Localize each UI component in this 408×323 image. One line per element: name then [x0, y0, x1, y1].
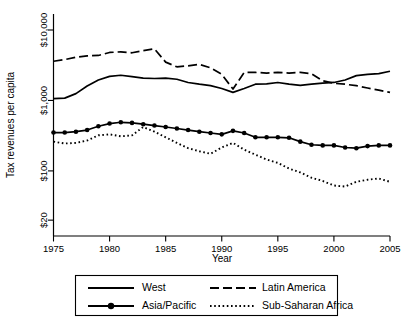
y-tick-label: $1,000 — [38, 86, 49, 115]
data-point — [130, 121, 135, 126]
data-point — [332, 143, 337, 148]
x-tick-label: 1985 — [155, 243, 176, 254]
y-tick-label: $10,000 — [38, 13, 49, 47]
legend-item-asia-pacific[interactable]: Asia/Pacific — [88, 299, 196, 311]
data-point — [242, 131, 247, 136]
data-point — [298, 139, 303, 144]
data-point — [343, 145, 348, 150]
data-point — [253, 135, 258, 140]
legend-item-west[interactable]: West — [88, 281, 166, 293]
x-tick-marks — [54, 236, 391, 242]
series-line — [54, 49, 391, 93]
data-point — [208, 131, 213, 136]
legend-label: West — [142, 281, 166, 293]
x-tick-label: 1995 — [267, 243, 288, 254]
data-point — [197, 129, 202, 134]
data-point — [376, 143, 381, 148]
data-point — [107, 121, 112, 126]
data-point — [276, 135, 281, 140]
legend-label: Asia/Pacific — [142, 299, 196, 311]
legend-marker — [108, 303, 114, 309]
x-tick-label: 1980 — [99, 243, 120, 254]
x-tick-label: 2005 — [379, 243, 400, 254]
x-tick-label: 2000 — [323, 243, 344, 254]
data-point — [287, 136, 292, 141]
chart-legend: WestLatin AmericaAsia/PacificSub-Saharan… — [76, 276, 354, 316]
data-point — [354, 146, 359, 151]
y-tick-labels: $20$100$1,000$10,000 — [38, 13, 49, 228]
data-point — [74, 129, 79, 134]
data-point — [231, 129, 236, 134]
data-point — [152, 123, 157, 128]
data-point — [96, 124, 101, 129]
data-point — [163, 125, 168, 130]
data-point — [388, 143, 393, 148]
legend-items: WestLatin AmericaAsia/PacificSub-Saharan… — [88, 281, 353, 311]
data-point — [175, 126, 180, 131]
chart-figure: $20$100$1,000$10,000 1975198019851990199… — [0, 0, 408, 323]
legend-label: Latin America — [262, 281, 326, 293]
data-point — [51, 130, 56, 135]
data-point — [219, 132, 224, 137]
x-axis-title: Year — [212, 253, 233, 264]
data-point — [62, 130, 67, 135]
legend-label: Sub-Saharan Africa — [262, 299, 353, 311]
data-point — [365, 144, 370, 149]
data-point — [320, 143, 325, 148]
data-point — [85, 128, 90, 133]
data-point — [119, 120, 124, 125]
legend-item-sub-saharan-africa[interactable]: Sub-Saharan Africa — [210, 299, 353, 311]
data-point — [186, 128, 191, 133]
y-tick-label: $20 — [38, 212, 49, 228]
series-line — [54, 71, 391, 98]
series-west — [54, 71, 391, 98]
series-latin-america — [54, 49, 391, 93]
data-series-layer — [51, 49, 392, 187]
x-tick-label: 1975 — [43, 243, 64, 254]
data-point — [264, 135, 269, 140]
y-tick-label: $100 — [38, 160, 49, 181]
y-tick-marks — [48, 30, 54, 220]
tax-revenue-line-chart: $20$100$1,000$10,000 1975198019851990199… — [0, 0, 408, 323]
legend-item-latin-america[interactable]: Latin America — [210, 281, 326, 293]
data-point — [309, 142, 314, 147]
data-point — [141, 122, 146, 127]
y-axis-title: Tax revenues per capita — [5, 71, 16, 178]
